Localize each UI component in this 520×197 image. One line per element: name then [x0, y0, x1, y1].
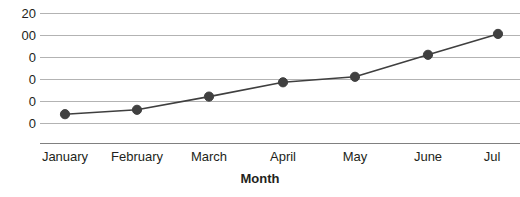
x-tick-label-april: April: [270, 150, 296, 163]
x-tick-label-february: February: [111, 150, 163, 163]
data-point-march: [204, 92, 213, 101]
data-point-june: [423, 50, 432, 59]
series-line: [65, 34, 498, 114]
x-tick-label-march: March: [191, 150, 227, 163]
data-point-february: [132, 105, 141, 114]
series-markers: [60, 29, 502, 119]
data-point-april: [278, 78, 287, 87]
x-tick-label-may: May: [343, 150, 368, 163]
x-tick-label-january: January: [42, 150, 88, 163]
x-axis-title: Month: [0, 172, 520, 185]
data-point-january: [60, 110, 69, 119]
x-tick-label-june: June: [414, 150, 442, 163]
data-point-may: [350, 72, 359, 81]
data-series: [0, 0, 520, 197]
x-tick-label-july: Jul: [484, 150, 501, 163]
line-chart: 20 00 0 0 0 0 January February March Apr…: [0, 0, 520, 197]
data-point-july: [493, 29, 502, 38]
